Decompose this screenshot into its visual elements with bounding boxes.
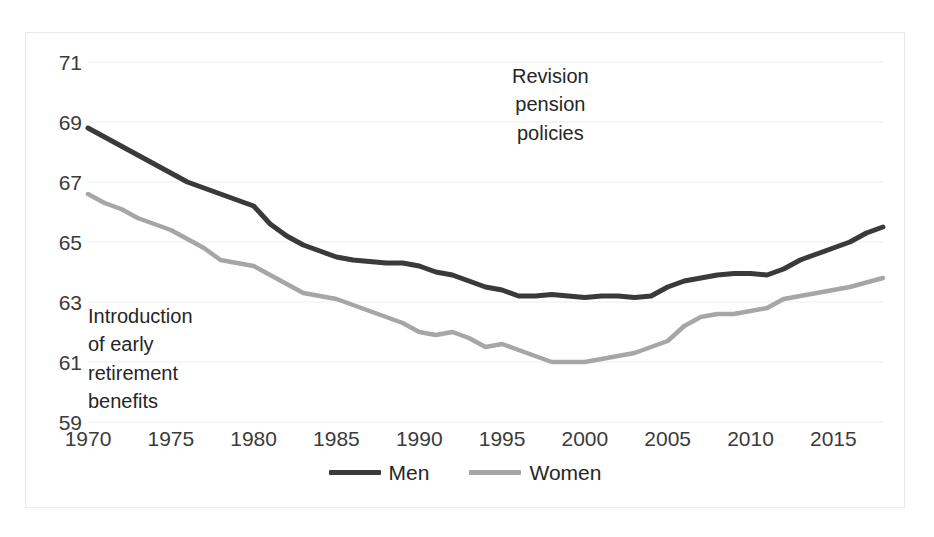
legend-swatch-men <box>329 470 381 475</box>
y-axis-tick-label: 67 <box>36 172 82 193</box>
legend-item-women[interactable]: Women <box>469 462 601 483</box>
chart-canvas <box>88 62 883 422</box>
x-axis-tick-label: 2010 <box>727 428 774 449</box>
series-line-men <box>88 128 883 298</box>
y-axis-tick-label: 65 <box>36 232 82 253</box>
series-line-women <box>88 194 883 362</box>
y-axis-tick-label: 61 <box>36 352 82 373</box>
y-axis-tick-label: 71 <box>36 52 82 73</box>
legend-item-men[interactable]: Men <box>329 462 430 483</box>
gridlines <box>88 62 883 422</box>
x-axis-tick-label: 1985 <box>313 428 360 449</box>
y-axis-tick-label: 63 <box>36 292 82 313</box>
x-axis-tick-label: 1970 <box>65 428 112 449</box>
x-axis-tick-label: 2000 <box>562 428 609 449</box>
x-axis-tick-label: 2005 <box>644 428 691 449</box>
legend-swatch-women <box>469 470 521 475</box>
annotation-early-retirement: Introduction of early retirement benefit… <box>88 302 193 416</box>
chart-page: 71696765636159 1970197519801985199019952… <box>0 0 934 537</box>
x-axis-tick-label: 1990 <box>396 428 443 449</box>
x-axis-tick-label: 1995 <box>479 428 526 449</box>
chart-legend: Men Women <box>25 462 905 483</box>
legend-label-women: Women <box>529 462 601 483</box>
annotation-revision-pension: Revision pension policies <box>512 62 589 147</box>
x-axis: 1970197519801985199019952000200520102015 <box>88 428 883 458</box>
y-axis: 71696765636159 <box>30 62 82 422</box>
y-axis-tick-label: 69 <box>36 112 82 133</box>
x-axis-tick-label: 1980 <box>230 428 277 449</box>
legend-label-men: Men <box>389 462 430 483</box>
data-series-layer <box>88 128 883 362</box>
plot-area <box>88 62 883 422</box>
x-axis-tick-label: 2015 <box>810 428 857 449</box>
x-axis-tick-label: 1975 <box>147 428 194 449</box>
